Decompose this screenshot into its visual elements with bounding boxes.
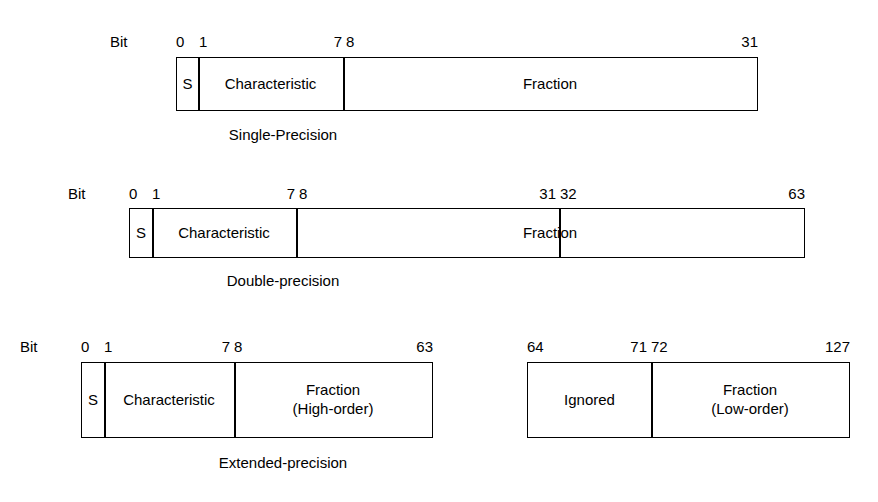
characteristic-field-label: Characteristic xyxy=(104,363,234,437)
tick-71: 71 xyxy=(630,339,647,354)
tick-1: 1 xyxy=(152,186,160,201)
word-boundary-divider xyxy=(559,209,561,257)
tick-1: 1 xyxy=(199,34,207,49)
double-precision-word-box: S Characteristic Fraction xyxy=(129,208,805,258)
tick-1: 1 xyxy=(104,339,112,354)
tick-72: 72 xyxy=(651,339,668,354)
fraction-field-label: Fraction xyxy=(344,58,756,110)
ignored-divider xyxy=(651,363,653,437)
sign-field-label: S xyxy=(177,58,198,110)
tick-63: 63 xyxy=(416,339,433,354)
tick-8: 8 xyxy=(299,186,307,201)
characteristic-field-label: Characteristic xyxy=(152,209,296,257)
sign-field-label: S xyxy=(130,209,152,257)
bit-axis-label: Bit xyxy=(20,339,38,354)
characteristic-divider xyxy=(296,209,298,257)
ignored-field-label: Ignored xyxy=(528,363,651,437)
tick-7: 7 xyxy=(287,186,295,201)
sign-divider xyxy=(104,363,106,437)
fraction-low-order-field-label: Fraction (Low-order) xyxy=(652,363,848,437)
extended-precision-caption: Extended-precision xyxy=(219,455,347,470)
tick-0: 0 xyxy=(81,339,89,354)
characteristic-divider xyxy=(343,58,345,110)
characteristic-field-label: Characteristic xyxy=(198,58,343,110)
tick-31: 31 xyxy=(741,34,758,49)
tick-0: 0 xyxy=(176,34,184,49)
single-precision-caption: Single-Precision xyxy=(229,127,337,142)
sign-divider xyxy=(198,58,200,110)
extended-precision-high-word-box: S Characteristic Fraction (High-order) xyxy=(81,362,433,438)
tick-63: 63 xyxy=(788,186,805,201)
double-precision-caption: Double-precision xyxy=(227,273,340,288)
sign-field-label: S xyxy=(82,363,104,437)
tick-127: 127 xyxy=(825,339,850,354)
single-precision-word-box: S Characteristic Fraction xyxy=(176,57,758,111)
tick-32: 32 xyxy=(560,186,577,201)
tick-8: 8 xyxy=(346,34,354,49)
sign-divider xyxy=(152,209,154,257)
bit-axis-label: Bit xyxy=(110,34,128,49)
bit-axis-label: Bit xyxy=(68,186,86,201)
tick-31: 31 xyxy=(539,186,556,201)
tick-0: 0 xyxy=(129,186,137,201)
tick-7: 7 xyxy=(222,339,230,354)
tick-64: 64 xyxy=(527,339,544,354)
characteristic-divider xyxy=(234,363,236,437)
extended-precision-low-word-box: Ignored Fraction (Low-order) xyxy=(527,362,850,438)
tick-7: 7 xyxy=(334,34,342,49)
fraction-high-order-field-label: Fraction (High-order) xyxy=(235,363,431,437)
fraction-field-label: Fraction xyxy=(297,209,803,257)
tick-8: 8 xyxy=(234,339,242,354)
